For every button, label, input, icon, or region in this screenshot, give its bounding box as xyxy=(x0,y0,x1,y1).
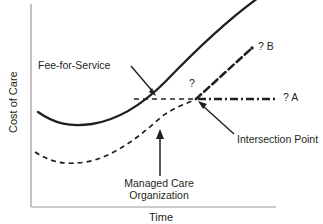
chart-figure: Cost of Care Time Fee-for-Service ? B ? … xyxy=(0,0,323,224)
annotation-question-mark: ? xyxy=(189,78,195,90)
x-axis-label: Time xyxy=(131,211,191,223)
annotation-fee-for-service: Fee-for-Service xyxy=(38,60,110,72)
annotation-intersection-point: Intersection Point xyxy=(237,134,318,146)
y-axis-label: Cost of Care xyxy=(7,67,19,137)
fee-for-service-leader-line xyxy=(131,66,154,93)
managed-care-arrowhead xyxy=(156,129,164,139)
series-managed-care-curve xyxy=(35,99,196,163)
intersection-leader-line xyxy=(203,106,234,134)
annotation-managed-care-line1: Managed Care xyxy=(104,178,214,190)
annotation-branch-b: ? B xyxy=(258,41,274,53)
series-branch-b-line xyxy=(196,48,252,99)
annotation-branch-a: ? A xyxy=(283,92,298,104)
annotation-managed-care-line2: Organization xyxy=(104,190,214,202)
annotation-managed-care: Managed Care Organization xyxy=(104,178,214,202)
branch-b-endpoint xyxy=(250,46,253,49)
